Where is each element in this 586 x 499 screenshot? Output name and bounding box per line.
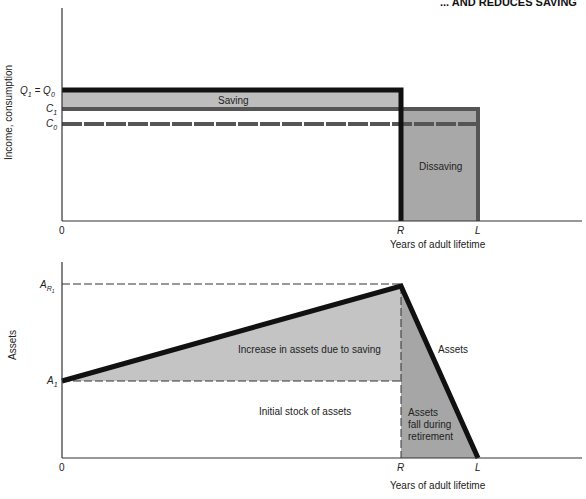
fall-label-line2: fall during [408,419,451,430]
top-x-axis-label: Years of adult lifetime [390,239,486,250]
top-tick-zero: 0 [59,225,65,236]
assets-curve-label: Assets [438,344,468,355]
fall-label-line3: retirement [408,431,453,442]
top-y-axis-label: Income, consumption [3,65,14,160]
bottom-tick-r: R [397,462,404,473]
figure: ... AND REDUCES SAVING Q1 = Q0 C1 C0 Inc… [0,0,586,499]
top-tick-l: L [475,225,481,236]
page-header-fragment: ... AND REDUCES SAVING [440,0,577,8]
bottom-tick-zero: 0 [59,462,65,473]
bottom-x-axis-label: Years of adult lifetime [390,480,486,491]
ar1-label: AR1 [39,279,55,294]
fall-label-line1: Assets [408,407,438,418]
initial-stock-label: Initial stock of assets [259,406,351,417]
saving-label: Saving [218,95,249,106]
top-tick-r: R [397,225,404,236]
a1-label: A1 [46,375,58,388]
q-label: Q1 = Q0 [20,85,55,98]
top-chart: Q1 = Q0 C1 C0 Income, consumption Saving… [3,8,582,250]
dissaving-label: Dissaving [419,161,462,172]
increase-label: Increase in assets due to saving [238,344,381,355]
bottom-y-axis-label: Assets [7,330,18,360]
c1-label: C1 [46,103,57,116]
bottom-tick-l: L [475,462,481,473]
bottom-chart: AR1 A1 Assets Increase in assets due to … [7,262,582,491]
c0-label: C0 [46,118,57,131]
